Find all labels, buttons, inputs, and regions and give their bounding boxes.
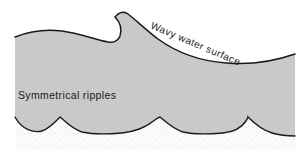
label-symmetrical-ripples: Symmetrical ripples	[18, 89, 116, 101]
ripple-diagram-figure: Wavy water surface Symmetrical ripples	[0, 0, 305, 158]
diagram-canvas: Wavy water surface Symmetrical ripples	[0, 0, 305, 158]
